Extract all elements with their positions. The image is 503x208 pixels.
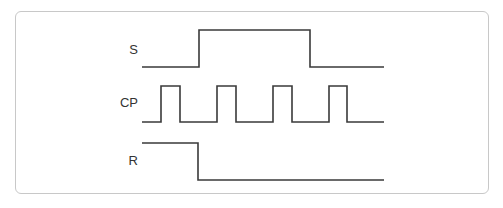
waveform-s	[142, 30, 384, 67]
signal-label-cp: CP	[98, 95, 138, 111]
timing-diagram	[0, 0, 503, 208]
signal-label-s: S	[98, 42, 138, 58]
signal-label-r: R	[98, 153, 138, 169]
waveform-r	[142, 143, 384, 180]
waveform-cp	[142, 86, 384, 122]
